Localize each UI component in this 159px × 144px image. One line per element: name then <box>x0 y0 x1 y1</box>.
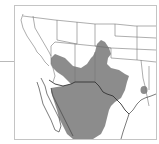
ok-row <box>111 48 156 62</box>
utah-co-line <box>57 20 77 44</box>
range-main <box>51 40 129 139</box>
range-shading <box>51 40 148 139</box>
coastline-west <box>21 14 49 66</box>
range-map <box>14 5 157 140</box>
row-line-top <box>23 16 156 26</box>
leader-line <box>0 61 15 62</box>
nv-az-border <box>51 42 55 56</box>
mexico-gulf-coast <box>121 114 129 139</box>
map-canvas <box>15 6 156 139</box>
gulf-coast <box>129 94 156 114</box>
